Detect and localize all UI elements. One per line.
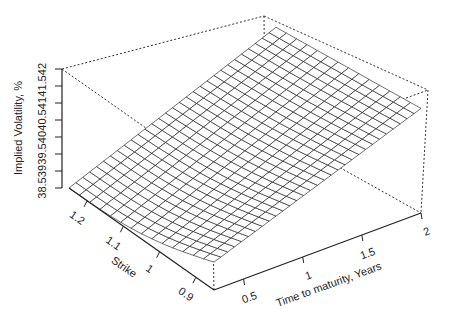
strike-tick	[193, 277, 196, 283]
z-tick-label: 38.5	[36, 177, 48, 198]
z-tick-label: 42	[36, 63, 48, 75]
time-tick-label: 0.5	[240, 289, 258, 306]
time-tick-label: 1	[303, 269, 313, 282]
time-tick-label: 2	[422, 225, 432, 238]
z-axis-ticks: 38.53939.54040.54141.542	[36, 63, 62, 199]
strike-tick-label: 1.1	[104, 234, 123, 253]
time-tick	[244, 279, 245, 285]
strike-tick	[157, 252, 160, 258]
z-tick-label: 39	[36, 165, 48, 177]
time-tick	[303, 257, 304, 263]
time-axis-ticks: 0.511.52	[240, 213, 432, 305]
z-tick-label: 40.5	[36, 109, 48, 130]
time-tick-label: 1.5	[358, 245, 376, 262]
strike-tick-label: 0.9	[176, 285, 195, 304]
volatility-surface	[69, 27, 421, 262]
strike-tick	[84, 201, 87, 207]
time-axis-label: Time to maturity, Years	[274, 259, 383, 309]
z-tick-label: 40	[36, 131, 48, 143]
z-axis-label: Implied Volatility, %	[12, 81, 24, 175]
strike-tick-label: 1.2	[68, 208, 87, 227]
time-tick	[362, 235, 363, 241]
time-tick	[421, 213, 422, 219]
surface-plot: 38.53939.54040.54141.542 1.21.110.9 0.51…	[0, 0, 452, 323]
z-tick-label: 41.5	[36, 75, 48, 96]
z-tick-label: 39.5	[36, 143, 48, 164]
z-tick-label: 41	[36, 97, 48, 109]
strike-tick	[120, 226, 123, 232]
strike-axis-label: Strike	[109, 254, 139, 280]
strike-tick-label: 1	[144, 262, 156, 275]
